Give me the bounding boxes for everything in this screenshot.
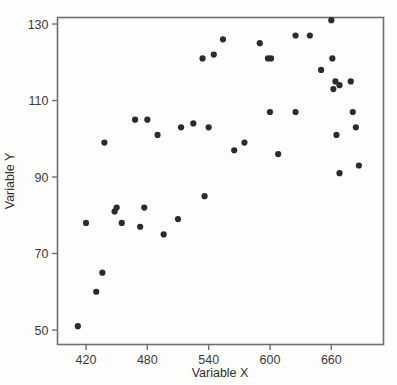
scatter-point [137, 224, 143, 230]
scatter-point [161, 231, 167, 237]
y-axis-tick-labels: 507090110130 [28, 18, 49, 338]
scatter-point [231, 147, 237, 153]
scatter-plot-figure: 420480540600660 507090110130 Variable X … [0, 0, 397, 385]
scatter-point [93, 289, 99, 295]
scatter-point [144, 117, 150, 123]
scatter-point [356, 162, 362, 168]
scatter-point [199, 55, 205, 61]
scatter-point [307, 32, 313, 38]
x-axis-ticks [86, 345, 331, 351]
scatter-point [257, 40, 263, 46]
scatter-point [336, 170, 342, 176]
scatter-point [201, 193, 207, 199]
scatter-point [292, 32, 298, 38]
scatter-point [350, 109, 356, 115]
x-tick-label: 540 [198, 353, 219, 367]
scatter-point [190, 120, 196, 126]
screenshot-root: 420480540600660 507090110130 Variable X … [0, 0, 397, 385]
scatter-point [275, 151, 281, 157]
scatter-point [119, 220, 125, 226]
y-tick-label: 110 [29, 94, 49, 108]
y-axis-title: Variable Y [3, 152, 17, 209]
scatter-point [328, 17, 334, 23]
scatter-point [333, 132, 339, 138]
x-axis-tick-labels: 420480540600660 [76, 353, 342, 367]
plot-canvas: 420480540600660 507090110130 Variable X … [0, 0, 397, 385]
scatter-point [220, 36, 226, 42]
scatter-point [211, 52, 217, 58]
scatter-point [114, 205, 120, 211]
x-tick-label: 600 [260, 353, 281, 367]
scatter-point [348, 78, 354, 84]
y-axis-ticks [52, 24, 58, 330]
scatter-point [267, 109, 273, 115]
x-tick-label: 660 [321, 353, 342, 367]
scatter-point-layer [75, 17, 362, 329]
scatter-point [318, 67, 324, 73]
scatter-point [336, 82, 342, 88]
plot-frame [58, 18, 384, 345]
y-tick-label: 90 [35, 171, 49, 185]
scatter-point [268, 55, 274, 61]
scatter-point [329, 55, 335, 61]
y-tick-label: 50 [35, 324, 49, 338]
y-tick-label: 70 [35, 247, 49, 261]
scatter-point [206, 124, 212, 130]
scatter-point [141, 205, 147, 211]
scatter-point [330, 86, 336, 92]
scatter-point [99, 270, 105, 276]
scatter-point [75, 323, 81, 329]
scatter-point [292, 109, 298, 115]
scatter-point [178, 124, 184, 130]
x-tick-label: 480 [137, 353, 158, 367]
scatter-point [353, 124, 359, 130]
x-axis-title: Variable X [192, 366, 249, 380]
scatter-point [101, 139, 107, 145]
scatter-point [175, 216, 181, 222]
x-tick-label: 420 [76, 353, 97, 367]
scatter-point [83, 220, 89, 226]
scatter-point [241, 139, 247, 145]
scatter-point [154, 132, 160, 138]
scatter-point [132, 117, 138, 123]
y-tick-label: 130 [28, 18, 49, 32]
